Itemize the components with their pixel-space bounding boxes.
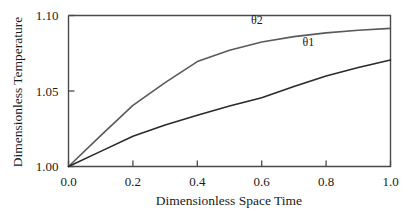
y-tick-label: 1.10 [36, 8, 59, 23]
x-tick-label: 0.0 [60, 174, 76, 189]
y-tick-label: 1.00 [36, 159, 59, 174]
data-curve-θ2 [69, 28, 391, 166]
y-tick-labels: 1.001.051.10 [36, 8, 59, 174]
series-annotations: θ2θ1 [251, 13, 314, 50]
x-axis-title: Dimensionless Space Time [156, 193, 302, 208]
data-curve-θ1 [69, 60, 391, 166]
line-chart: 0.00.20.40.60.81.0 1.001.051.10 Dimensio… [0, 0, 412, 211]
x-tick-labels: 0.00.20.40.60.81.0 [60, 174, 398, 189]
x-tick-label: 0.2 [125, 174, 141, 189]
x-tick-label: 0.6 [254, 174, 271, 189]
chart-figure: 0.00.20.40.60.81.0 1.001.051.10 Dimensio… [0, 0, 412, 211]
data-curves [69, 28, 391, 166]
x-tick-label: 0.4 [189, 174, 206, 189]
series-label-θ1: θ1 [303, 35, 315, 49]
series-label-θ2: θ2 [251, 13, 263, 27]
y-tick-marks [69, 16, 75, 167]
x-tick-label: 0.8 [318, 174, 334, 189]
x-tick-label: 1.0 [382, 174, 398, 189]
y-tick-label: 1.05 [36, 84, 59, 99]
x-tick-marks [69, 161, 391, 167]
y-axis-title: Dimensionless Temperature [10, 17, 25, 168]
